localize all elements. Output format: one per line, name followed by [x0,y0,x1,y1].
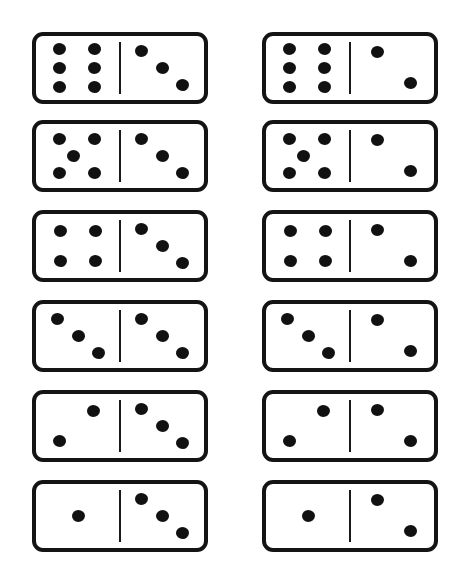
domino-2-2[interactable] [262,390,438,462]
domino-half-right [120,36,204,100]
domino-half-left [36,214,120,278]
pip [371,404,384,416]
domino-half-right [350,484,434,548]
domino-half-right [120,214,204,278]
pip [156,420,169,432]
domino-3-2[interactable] [262,300,438,372]
pip [88,133,101,145]
domino-face [266,36,434,100]
domino-face [36,484,204,548]
pip [371,494,384,506]
domino-6-3[interactable] [32,32,208,104]
pip [135,403,148,415]
pip [302,330,315,342]
pip [156,240,169,252]
domino-half-right [120,394,204,458]
domino-board [0,0,467,574]
domino-face [266,394,434,458]
pip [319,255,332,267]
pip [371,314,384,326]
pip [67,150,80,162]
domino-face [36,394,204,458]
pip [283,133,296,145]
pip [87,405,100,417]
domino-face [266,214,434,278]
domino-half-right [120,124,204,188]
pip [176,257,189,269]
pip [51,313,64,325]
pip [404,165,417,177]
pip [88,43,101,55]
pip [318,133,331,145]
domino-half-right [350,214,434,278]
pip [318,62,331,74]
pip [283,435,296,447]
pip [135,313,148,325]
domino-face [266,304,434,368]
pip [317,405,330,417]
pip [88,167,101,179]
pip [54,255,67,267]
domino-half-right [350,394,434,458]
domino-half-left [266,484,350,548]
pip [88,62,101,74]
pip [283,167,296,179]
domino-half-left [266,214,350,278]
pip [297,150,310,162]
pip [404,435,417,447]
pip [135,493,148,505]
domino-1-2[interactable] [262,480,438,552]
pip [53,43,66,55]
domino-half-right [350,124,434,188]
pip [322,347,335,359]
domino-5-2[interactable] [262,120,438,192]
domino-half-right [120,484,204,548]
pip [371,224,384,236]
pip [53,62,66,74]
pip [89,225,102,237]
pip [53,435,66,447]
pip [318,167,331,179]
pip [135,133,148,145]
domino-grid [0,0,467,574]
pip [176,79,189,91]
pip [176,527,189,539]
domino-half-left [266,124,350,188]
domino-4-2[interactable] [262,210,438,282]
pip [284,255,297,267]
pip [176,347,189,359]
pip [404,77,417,89]
domino-half-right [350,304,434,368]
domino-2-3[interactable] [32,390,208,462]
domino-face [36,124,204,188]
pip [283,43,296,55]
domino-half-right [350,36,434,100]
domino-face [36,36,204,100]
pip [318,81,331,93]
pip [283,62,296,74]
domino-half-left [36,394,120,458]
pip [281,313,294,325]
pip [156,510,169,522]
pip [156,62,169,74]
domino-face [36,304,204,368]
domino-half-left [36,304,120,368]
pip [72,510,85,522]
pip [284,225,297,237]
pip [135,45,148,57]
pip [88,81,101,93]
pip [92,347,105,359]
pip [54,225,67,237]
domino-4-3[interactable] [32,210,208,282]
domino-6-2[interactable] [262,32,438,104]
domino-1-3[interactable] [32,480,208,552]
pip [318,43,331,55]
domino-5-3[interactable] [32,120,208,192]
pip [53,81,66,93]
domino-half-right [120,304,204,368]
domino-half-left [266,304,350,368]
pip [404,525,417,537]
domino-half-left [36,484,120,548]
pip [371,134,384,146]
domino-3-3[interactable] [32,300,208,372]
